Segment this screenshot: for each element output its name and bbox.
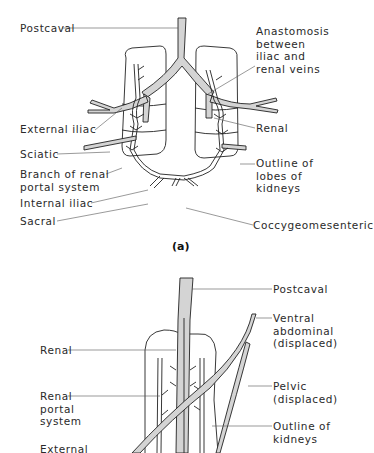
label-anastomosis: Anastomosis between iliac and renal vein… [256, 25, 329, 75]
label-postcaval-a: Postcaval [20, 22, 75, 35]
label-external-iliac-a: External iliac [20, 123, 96, 136]
external-iliac-vein [88, 96, 148, 113]
label-outline-kidneys: Outline of kidneys [273, 420, 330, 445]
label-external-b: External [40, 443, 88, 453]
label-renal-a: Renal [256, 122, 288, 135]
label-ventral-abdominal: Ventral abdominal (displaced) [273, 312, 338, 350]
label-postcaval-b: Postcaval [273, 283, 328, 296]
postcaval-vein [142, 18, 214, 98]
label-renal-b: Renal [40, 344, 72, 357]
label-sacral: Sacral [20, 215, 56, 228]
label-branch-renal-portal: Branch of renal portal system [20, 168, 109, 193]
figure-a-drawing [57, 18, 278, 225]
figure-b-drawing [68, 278, 272, 453]
panel-label-a: (a) [172, 240, 189, 253]
label-renal-portal-system: Renal portal system [40, 390, 82, 428]
label-outline-lobes: Outline of lobes of kidneys [256, 157, 313, 195]
label-internal-iliac: Internal iliac [20, 197, 93, 210]
postcaval-vein-b [176, 278, 193, 453]
label-sciatic: Sciatic [20, 148, 59, 161]
label-coccygeomesenteric: Coccygeomesenteric [253, 219, 374, 232]
label-pelvic: Pelvic (displaced) [273, 380, 338, 405]
